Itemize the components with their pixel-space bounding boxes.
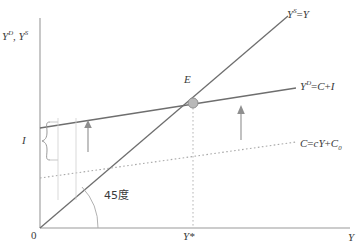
consumption-label-text: C=cY+C0 [300, 137, 342, 149]
consumption-label: C=cY+C0 [300, 138, 342, 152]
x-axis-label: Y [348, 232, 354, 243]
investment-bracket-label: I [22, 135, 26, 146]
arrow-right-up-icon [237, 105, 245, 140]
angle-label: 45度 [104, 190, 129, 201]
equilibrium-x-tick-label: Y* [183, 231, 195, 242]
aggregate-demand-label-text: YD=C+I [300, 80, 335, 92]
supply-line-label: YS=Y [287, 8, 309, 20]
equilibrium-point-marker [188, 98, 198, 108]
angle-arc-45deg [82, 187, 98, 228]
y-axis-label-text: YD, YS [2, 30, 28, 42]
consumption-line [40, 142, 296, 178]
diagram-canvas: YD, YS Y 0 Y* YS=Y YD=C+I C=cY+C0 E I 45… [0, 0, 364, 252]
arrow-left-up-icon [84, 120, 92, 152]
aggregate-demand-line [40, 88, 296, 128]
y-axis-label: YD, YS [2, 30, 28, 42]
diagram-graphics [0, 0, 364, 252]
origin-label: 0 [31, 230, 37, 241]
aggregate-demand-label: YD=C+I [300, 80, 335, 92]
supply-line-label-text: YS=Y [287, 8, 309, 20]
equilibrium-point-label: E [184, 74, 191, 85]
